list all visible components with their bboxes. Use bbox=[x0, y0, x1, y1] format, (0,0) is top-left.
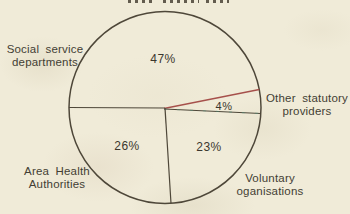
value-other-statutory-pct: 4% bbox=[206, 100, 242, 112]
label-line: Area Health bbox=[12, 165, 102, 178]
label-voluntary-oganisations: Voluntary oganisations bbox=[224, 172, 316, 197]
label-line: oganisations bbox=[224, 185, 316, 198]
boundary-voluntary-area bbox=[165, 108, 171, 203]
label-line: Social service bbox=[2, 43, 88, 56]
label-line: providers bbox=[264, 105, 350, 118]
boundary-social-area bbox=[69, 108, 165, 109]
label-social-service-departments: Social service departments bbox=[2, 43, 88, 68]
scanned-pie-chart-page: Social service departments Other statuto… bbox=[0, 0, 350, 214]
label-other-statutory-providers: Other statutory providers bbox=[264, 92, 350, 117]
label-line: Other statutory bbox=[264, 92, 350, 105]
label-line: Voluntary bbox=[224, 172, 316, 185]
value-voluntary-pct: 23% bbox=[191, 140, 227, 154]
label-line: Authorities bbox=[12, 178, 102, 191]
label-line: departments bbox=[2, 56, 88, 69]
value-area-health-pct: 26% bbox=[109, 139, 145, 153]
value-social-service-pct: 47% bbox=[143, 52, 183, 66]
label-area-health-authorities: Area Health Authorities bbox=[12, 165, 102, 190]
